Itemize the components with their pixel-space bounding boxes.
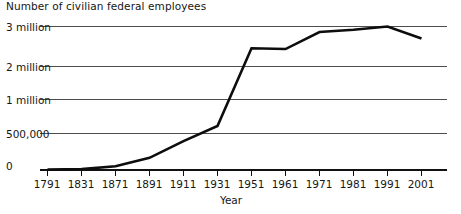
data-series-line [48, 27, 422, 170]
x-tick-label-1951: 1951 [238, 178, 265, 190]
y-tick-label-500000: 500,000 [6, 128, 49, 140]
x-tick-label-1891: 1891 [136, 178, 163, 190]
x-tick-label-1961: 1961 [272, 178, 299, 190]
x-tick-label-2001: 2001 [408, 178, 435, 190]
x-tick-label-1911: 1911 [170, 178, 197, 190]
x-axis-title: Year [220, 194, 242, 206]
y-tick-label-0: 0 [6, 160, 13, 172]
y-tick-label-2-million: 2 million [6, 61, 51, 73]
chart-container: Number of civilian federal employees 3 m… [0, 0, 461, 214]
x-tick-label-1931: 1931 [204, 178, 231, 190]
x-tick-label-1971: 1971 [306, 178, 333, 190]
x-tick-label-1991: 1991 [374, 178, 401, 190]
x-tick-label-1871: 1871 [102, 178, 129, 190]
gridlines [40, 27, 447, 134]
x-tick-label-1831: 1831 [68, 178, 95, 190]
x-tick-label-1791: 1791 [34, 178, 61, 190]
y-tick-label-3-million: 3 million [6, 21, 51, 33]
x-tick-label-1981: 1981 [340, 178, 367, 190]
y-tick-label-1-million: 1 million [6, 94, 51, 106]
